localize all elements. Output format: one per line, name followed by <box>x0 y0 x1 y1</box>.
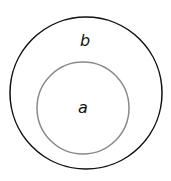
outer-set-label: b <box>80 31 90 50</box>
inner-set-label: a <box>78 98 88 117</box>
set-diagram: b a <box>0 0 171 181</box>
